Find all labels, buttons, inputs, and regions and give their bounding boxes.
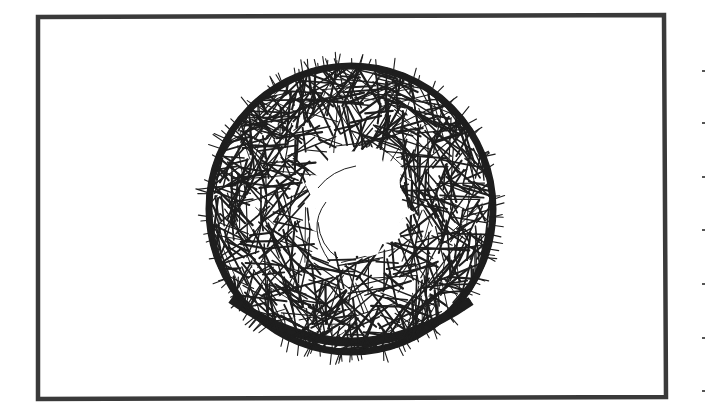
- illustration-canvas: [0, 0, 705, 406]
- ring-hatching: [181, 48, 512, 377]
- inner-arc-strokes: [317, 166, 358, 262]
- hatched-ring-illustration: [0, 0, 705, 406]
